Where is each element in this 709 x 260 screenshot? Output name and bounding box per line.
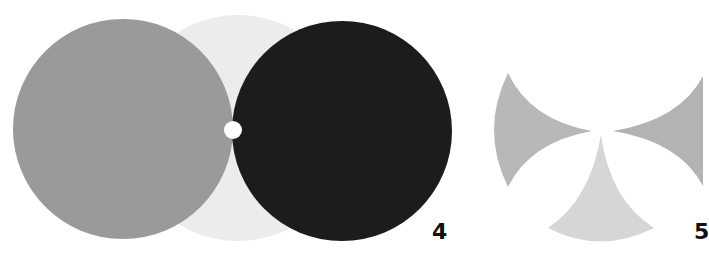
left-wedge [494, 73, 592, 187]
right-wedge [613, 76, 703, 186]
black-circle [232, 21, 452, 241]
figure-number-4: 4 [432, 221, 447, 243]
figure-5 [494, 73, 703, 242]
gray-circle [13, 19, 233, 239]
white-dot [224, 121, 242, 139]
figure-number-5: 5 [694, 221, 709, 243]
bottom-wedge [548, 135, 654, 242]
